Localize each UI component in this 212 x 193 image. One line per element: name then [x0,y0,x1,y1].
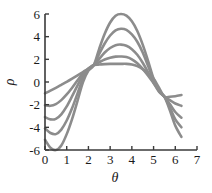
y-axis-title: ρ [2,78,17,86]
x-tick-label-1: 1 [63,152,70,167]
y-tick-label-0: -6 [29,143,40,158]
y-tick-label-3: 0 [34,75,41,90]
y-tick-label-5: 4 [34,29,41,44]
x-tick-label-2: 2 [85,152,92,167]
x-tick-label-5: 5 [150,152,157,167]
x-tick-label-4: 4 [129,152,136,167]
plot-canvas: 01234567-6-4-20246 θρ [0,0,212,193]
x-tick-label-6: 6 [172,152,179,167]
x-tick-label-0: 0 [42,152,49,167]
x-tick-label-7: 7 [194,152,201,167]
y-tick-label-6: 6 [34,7,41,22]
x-axis-title: θ [112,170,119,185]
y-tick-label-2: -2 [29,97,40,112]
curve-series-group [45,14,181,150]
chart-figure: 01234567-6-4-20246 θρ [0,0,212,193]
y-tick-label-1: -4 [29,120,40,135]
x-tick-label-3: 3 [107,152,114,167]
y-tick-label-4: 2 [34,52,41,67]
